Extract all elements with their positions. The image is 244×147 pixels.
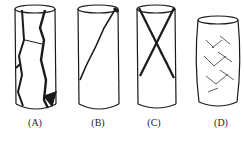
- label-a: (A): [20, 117, 50, 128]
- specimen-d: [196, 16, 240, 106]
- specimen-b: [78, 5, 119, 109]
- label-b: (B): [83, 117, 113, 128]
- specimen-c: [137, 5, 176, 108]
- label-c: (C): [139, 117, 169, 128]
- label-d: (D): [206, 117, 236, 128]
- specimen-a: [15, 5, 56, 109]
